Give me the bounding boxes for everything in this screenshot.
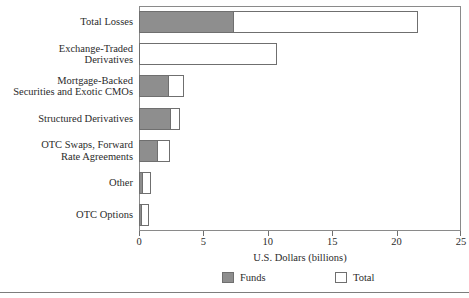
bar-group[interactable] (139, 140, 461, 162)
x-axis-title: U.S. Dollars (billions) (139, 252, 461, 263)
legend-swatch-funds-icon (222, 272, 234, 283)
x-axis-tick-label: 25 (456, 236, 467, 247)
bar-chart-figure: Total LossesExchange-Traded DerivativesM… (0, 0, 469, 298)
bar-segment-funds[interactable] (139, 204, 142, 226)
bars-layer (139, 6, 461, 231)
category-label: Mortgage-Backed Securities and Exotic CM… (13, 75, 133, 98)
legend-label: Funds (240, 272, 266, 283)
x-axis-tick-label: 10 (263, 236, 274, 247)
bottom-divider-rule (0, 292, 469, 293)
bar-segment-total[interactable] (139, 43, 277, 65)
category-label: Other (109, 177, 133, 189)
category-axis-labels: Total LossesExchange-Traded DerivativesM… (0, 6, 136, 231)
bar-group[interactable] (139, 204, 461, 226)
bar-segment-funds[interactable] (139, 140, 158, 162)
x-axis-tick-label: 5 (201, 236, 206, 247)
bar-group[interactable] (139, 43, 461, 65)
bar-group[interactable] (139, 108, 461, 130)
x-axis-ticks (139, 231, 461, 237)
legend-item[interactable]: Funds (222, 272, 266, 283)
legend-label: Total (353, 272, 374, 283)
category-label: Total Losses (80, 16, 133, 28)
category-label: Structured Derivatives (38, 113, 133, 125)
category-label: OTC Swaps, Forward Rate Agreements (41, 139, 133, 162)
bar-segment-funds[interactable] (139, 75, 169, 97)
bar-segment-funds[interactable] (139, 11, 234, 33)
category-label: OTC Options (76, 209, 133, 221)
bar-group[interactable] (139, 11, 461, 33)
x-axis-tick-label: 0 (136, 236, 141, 247)
legend-swatch-total-icon (335, 272, 347, 283)
category-label: Exchange-Traded Derivatives (59, 43, 133, 66)
chart-legend: FundsTotal (139, 272, 461, 288)
bar-segment-funds[interactable] (139, 108, 171, 130)
legend-item[interactable]: Total (335, 272, 374, 283)
x-axis-tick-label: 15 (327, 236, 338, 247)
x-axis-tick-label: 20 (391, 236, 402, 247)
bar-group[interactable] (139, 75, 461, 97)
bar-segment-funds[interactable] (139, 172, 143, 194)
bar-group[interactable] (139, 172, 461, 194)
